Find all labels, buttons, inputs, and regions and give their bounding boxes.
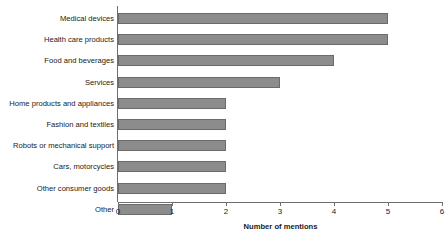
bar — [118, 34, 388, 45]
bar-chart: Medical devicesHealth care productsFood … — [0, 0, 446, 237]
x-tick — [334, 202, 335, 206]
x-tick — [388, 202, 389, 206]
category-label: Health care products — [0, 34, 114, 45]
x-tick — [226, 202, 227, 206]
x-tick-label: 6 — [427, 207, 446, 216]
category-label: Home products and appliances — [0, 98, 114, 109]
bar-row — [118, 8, 442, 29]
bar-row — [118, 29, 442, 50]
bar-row — [118, 114, 442, 135]
bar-row — [118, 178, 442, 199]
x-tick-label: 3 — [265, 207, 295, 216]
category-label: Food and beverages — [0, 55, 114, 66]
category-label: Fashion and textiles — [0, 119, 114, 130]
x-tick-label: 2 — [211, 207, 241, 216]
bar — [118, 55, 334, 66]
category-label: Other consumer goods — [0, 183, 114, 194]
x-tick-label: 0 — [103, 207, 133, 216]
category-label: Other — [0, 204, 114, 215]
x-tick — [118, 202, 119, 206]
bar-row — [118, 72, 442, 93]
bar-row — [118, 93, 442, 114]
bar — [118, 183, 226, 194]
bar-row — [118, 156, 442, 177]
x-axis-title: Number of mentions — [118, 222, 443, 231]
bar — [118, 98, 226, 109]
x-tick — [442, 202, 443, 206]
x-tick — [172, 202, 173, 206]
bar — [118, 13, 388, 24]
category-label: Medical devices — [0, 13, 114, 24]
x-tick-label: 1 — [157, 207, 187, 216]
x-tick — [280, 202, 281, 206]
category-label: Robots or mechanical support — [0, 140, 114, 151]
category-label: Services — [0, 77, 114, 88]
bar-row — [118, 50, 442, 71]
x-tick-label: 5 — [373, 207, 403, 216]
bar — [118, 119, 226, 130]
bar — [118, 77, 280, 88]
bar-row — [118, 135, 442, 156]
x-tick-label: 4 — [319, 207, 349, 216]
bar — [118, 140, 226, 151]
bar — [118, 161, 226, 172]
category-label: Cars, motorcycles — [0, 161, 114, 172]
